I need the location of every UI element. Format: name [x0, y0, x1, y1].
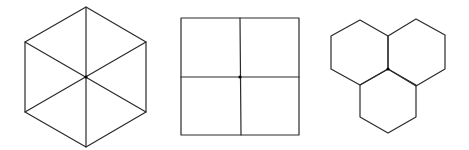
tiling-vertex-diagram: [0, 0, 469, 150]
hexagon-six-triangles-figure: [25, 7, 146, 147]
hexagon-3: [360, 69, 416, 133]
square-four-quadrants-figure: [181, 18, 299, 135]
hexagon-2: [388, 19, 445, 86]
center-vertex-dot: [238, 75, 241, 78]
three-hexagons-vertex-figure: [331, 19, 445, 133]
center-vertex-dot: [84, 75, 87, 78]
diagram-canvas: [0, 0, 469, 150]
center-vertex-dot: [386, 67, 389, 70]
hexagon-1: [331, 20, 388, 85]
